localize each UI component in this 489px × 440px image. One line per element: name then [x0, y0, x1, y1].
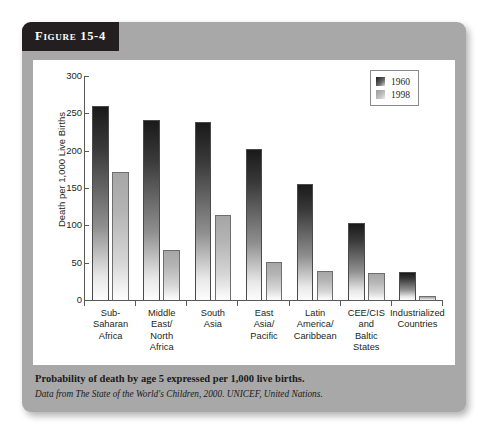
y-axis-tick-label: 150	[66, 182, 82, 193]
x-axis-tick-mark	[84, 301, 85, 306]
bar-1998-3	[266, 262, 283, 300]
chart-plot-panel: Death per 1,000 Live Births 050100150200…	[33, 60, 455, 365]
legend-swatch-icon	[376, 90, 385, 99]
chart-legend: 1960 1998	[370, 70, 419, 106]
x-axis-tick-mark	[289, 301, 290, 306]
bar-1960-3	[246, 149, 263, 300]
figure-card: Figure 15-4 Death per 1,000 Live Births …	[22, 22, 466, 412]
bar-1998-0	[112, 172, 129, 300]
y-axis-tick-label: 200	[66, 145, 82, 156]
bars-layer	[85, 76, 443, 300]
legend-item: 1998	[376, 88, 410, 101]
legend-swatch-icon	[376, 77, 385, 86]
bar-1960-6	[399, 272, 416, 300]
y-axis-tick-label: 100	[66, 219, 82, 230]
bar-1998-4	[317, 271, 334, 300]
bar-1960-4	[297, 184, 314, 300]
bar-1960-2	[195, 122, 212, 300]
legend-label: 1960	[391, 77, 410, 87]
bar-1960-5	[348, 223, 365, 300]
bar-1998-6	[419, 296, 436, 300]
x-axis-tick-mark	[442, 301, 443, 306]
bar-1960-1	[143, 120, 160, 300]
x-axis-line	[84, 300, 443, 301]
figure-number-banner: Figure 15-4	[22, 22, 119, 51]
y-axis-title: Death per 1,000 Live Births	[56, 85, 67, 255]
legend-item: 1960	[376, 75, 410, 88]
bar-1998-1	[163, 250, 180, 300]
x-axis-tick-mark	[237, 301, 238, 306]
y-axis-tick-label: 250	[66, 107, 82, 118]
caption-title: Probability of death by age 5 expressed …	[35, 372, 455, 386]
x-axis-category-label: IndustrializedCountries	[386, 308, 449, 331]
x-axis-tick-mark	[340, 301, 341, 306]
legend-label: 1998	[391, 90, 410, 100]
x-axis-tick-mark	[186, 301, 187, 306]
x-axis-category-labels: Sub-SaharanAfricaMiddleEast/NorthAfricaS…	[85, 308, 443, 366]
caption-source: Data from The State of the World's Child…	[35, 387, 455, 401]
bar-1998-5	[368, 273, 385, 300]
y-axis-tick-label: 300	[66, 70, 82, 81]
x-axis-tick-mark	[135, 301, 136, 306]
y-axis-tick-label: 50	[71, 257, 82, 268]
y-axis-tick-label: 0	[77, 294, 82, 305]
bar-1960-0	[92, 106, 109, 300]
bar-1998-2	[215, 215, 232, 300]
x-axis-tick-mark	[391, 301, 392, 306]
figure-number-label: Figure 15-4	[35, 29, 106, 44]
figure-caption: Probability of death by age 5 expressed …	[35, 372, 455, 401]
